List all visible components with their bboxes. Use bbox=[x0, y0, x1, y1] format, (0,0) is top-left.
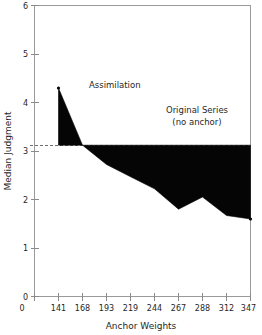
y-tick-label: 0 bbox=[23, 293, 28, 302]
y-tick-label: 1 bbox=[23, 244, 28, 253]
annotation-original-series-line2: (no anchor) bbox=[172, 117, 221, 127]
x-tick-label: 0 bbox=[19, 304, 24, 313]
y-tick-label: 6 bbox=[23, 2, 28, 11]
chart-canvas: 0 1 2 3 4 5 6 0 141 168 193 219 bbox=[0, 0, 262, 335]
y-axis-title: Median Judgment bbox=[3, 111, 13, 190]
data-point-marker-last bbox=[249, 217, 252, 220]
x-tick-label: 347 bbox=[241, 304, 256, 313]
x-tick-labels: 0 141 168 193 219 244 267 288 312 347 bbox=[19, 304, 256, 313]
y-tick-label: 4 bbox=[23, 99, 28, 108]
x-tick-label: 141 bbox=[51, 304, 66, 313]
x-tick-label: 244 bbox=[147, 304, 162, 313]
data-point-marker-first bbox=[57, 86, 60, 89]
x-tick-label: 267 bbox=[171, 304, 186, 313]
x-tick-label: 312 bbox=[219, 304, 234, 313]
x-axis-title: Anchor Weights bbox=[106, 321, 177, 331]
x-tick-label: 219 bbox=[123, 304, 138, 313]
y-tick-label: 2 bbox=[23, 196, 28, 205]
y-tick-label: 3 bbox=[23, 147, 28, 156]
annotation-original-series-line1: Original Series bbox=[166, 105, 229, 115]
x-tick-label: 288 bbox=[195, 304, 210, 313]
y-tick-label: 5 bbox=[23, 50, 28, 59]
x-tick-label: 193 bbox=[99, 304, 114, 313]
chart-figure: 0 1 2 3 4 5 6 0 141 168 193 219 bbox=[0, 0, 262, 335]
annotation-assimilation: Assimilation bbox=[89, 80, 141, 90]
x-tick-label: 168 bbox=[75, 304, 90, 313]
